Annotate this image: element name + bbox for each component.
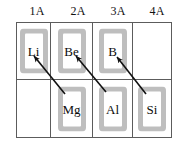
column-header-2a: 2A [57,3,99,19]
table-cell-row0-col0: Li [17,23,51,80]
element-box-li: Li [20,29,48,74]
table-cell-row0-col2: B [93,23,133,80]
element-symbol-si: Si [147,102,158,115]
periodic-table-grid: Li Be B Mg [16,22,172,138]
element-symbol-al: Al [106,102,119,115]
element-box-al: Al [99,86,127,131]
periodic-table-figure: 1A 2A 3A 4A Li Be B [0,0,189,148]
element-box-mg: Mg [58,86,86,131]
element-symbol-li: Li [28,45,40,58]
element-inner-be: Be [63,34,81,69]
element-box-b: B [99,29,127,74]
element-inner-al: Al [104,91,122,126]
table-cell-row1-col1: Mg [51,80,93,137]
element-symbol-b: B [108,45,117,58]
element-inner-si: Si [143,91,161,126]
element-symbol-mg: Mg [62,102,80,115]
table-cell-row0-col3-empty [133,23,171,80]
table-cell-row0-col1: Be [51,23,93,80]
table-cell-row1-col0-empty [17,80,51,137]
element-inner-b: B [104,34,122,69]
element-symbol-be: Be [64,45,78,58]
element-inner-mg: Mg [63,91,81,126]
column-header-row: 1A 2A 3A 4A [16,3,173,21]
column-header-3a: 3A [97,3,139,19]
column-header-1a: 1A [16,3,58,19]
table-cell-row1-col3: Si [133,80,171,137]
table-cell-row1-col2: Al [93,80,133,137]
element-inner-li: Li [25,34,43,69]
column-header-4a: 4A [136,3,178,19]
element-box-si: Si [138,86,166,131]
element-box-be: Be [58,29,86,74]
